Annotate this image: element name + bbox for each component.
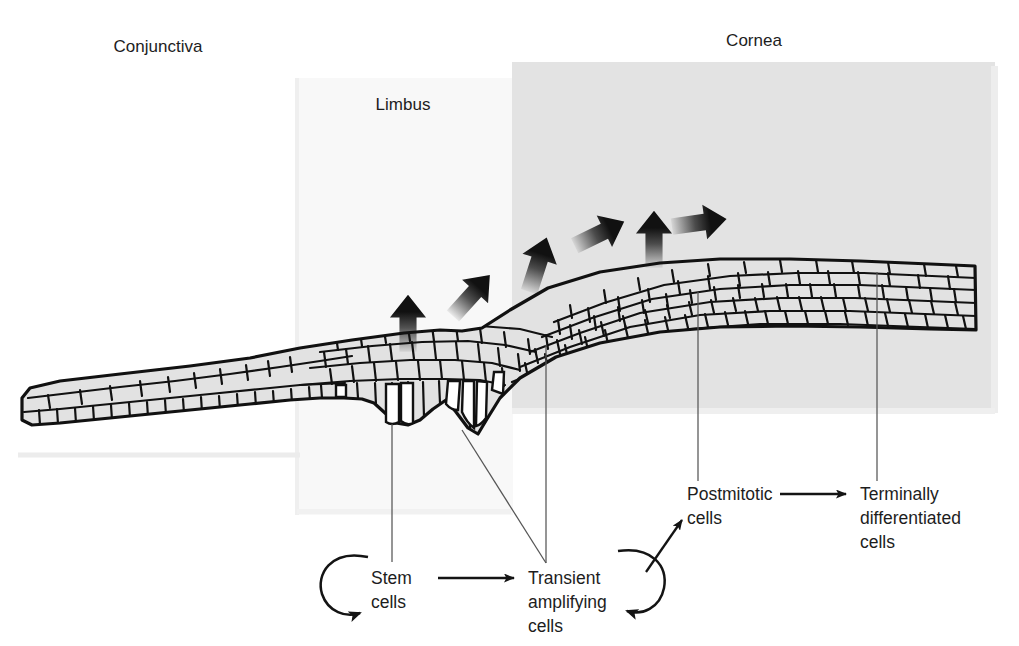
label-transient-line-2: amplifying <box>528 592 607 612</box>
limbus-panel-bottom-edge <box>297 509 511 514</box>
cornea-panel-right-edge <box>991 66 998 413</box>
label-postmitotic-line-1: Postmitotic <box>687 484 773 504</box>
label-terminal-line-2: differentiated <box>860 508 961 528</box>
label-conjunctiva: Conjunctiva <box>114 37 203 56</box>
label-transient-line-3: cells <box>528 616 563 636</box>
label-stem-cells-line-1: Stem <box>371 568 412 588</box>
cornea-stem-cell-diagram: Conjunctiva Limbus Cornea Stem cells Tra… <box>0 0 1019 646</box>
label-cornea: Cornea <box>726 31 782 50</box>
cornea-panel-bottom-edge <box>512 408 995 414</box>
label-limbus: Limbus <box>376 95 431 114</box>
label-terminal-line-3: cells <box>860 532 895 552</box>
label-terminal-line-1: Terminally <box>860 484 939 504</box>
limbus-panel-edge <box>295 78 299 515</box>
label-stem-cells-line-2: cells <box>371 592 406 612</box>
label-postmitotic-line-2: cells <box>687 508 722 528</box>
label-transient-line-1: Transient <box>528 568 600 588</box>
